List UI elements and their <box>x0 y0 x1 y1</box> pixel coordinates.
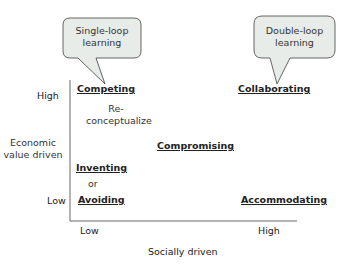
inventing-label: Inventing <box>76 162 127 173</box>
x-axis-title: Socially driven <box>148 246 218 258</box>
competing-label: Competing <box>77 83 135 94</box>
double-loop-line2: learning <box>254 37 335 49</box>
reconceptualize-line2: conceptualize <box>86 115 146 127</box>
or-label: or <box>88 178 98 190</box>
x-high-label: High <box>258 225 280 237</box>
y-axis-title-line2: value driven <box>2 149 64 161</box>
y-high-label: High <box>37 90 59 102</box>
reconceptualize-label: Re- conceptualize <box>86 103 146 127</box>
reconceptualize-line1: Re- <box>86 103 146 115</box>
collaborating-label: Collaborating <box>238 83 310 94</box>
avoiding-label: Avoiding <box>78 194 125 205</box>
y-axis-title-line1: Economic <box>2 137 64 149</box>
single-loop-line1: Single-loop <box>63 25 141 37</box>
x-low-label: Low <box>80 225 99 237</box>
single-loop-label: Single-loop learning <box>63 25 141 49</box>
compromising-label: Compromising <box>157 140 234 151</box>
accommodating-label: Accommodating <box>241 194 327 205</box>
double-loop-line1: Double-loop <box>254 25 335 37</box>
y-low-label: Low <box>47 195 66 207</box>
single-loop-line2: learning <box>63 37 141 49</box>
double-loop-label: Double-loop learning <box>254 25 335 49</box>
y-axis-title: Economic value driven <box>2 137 64 161</box>
